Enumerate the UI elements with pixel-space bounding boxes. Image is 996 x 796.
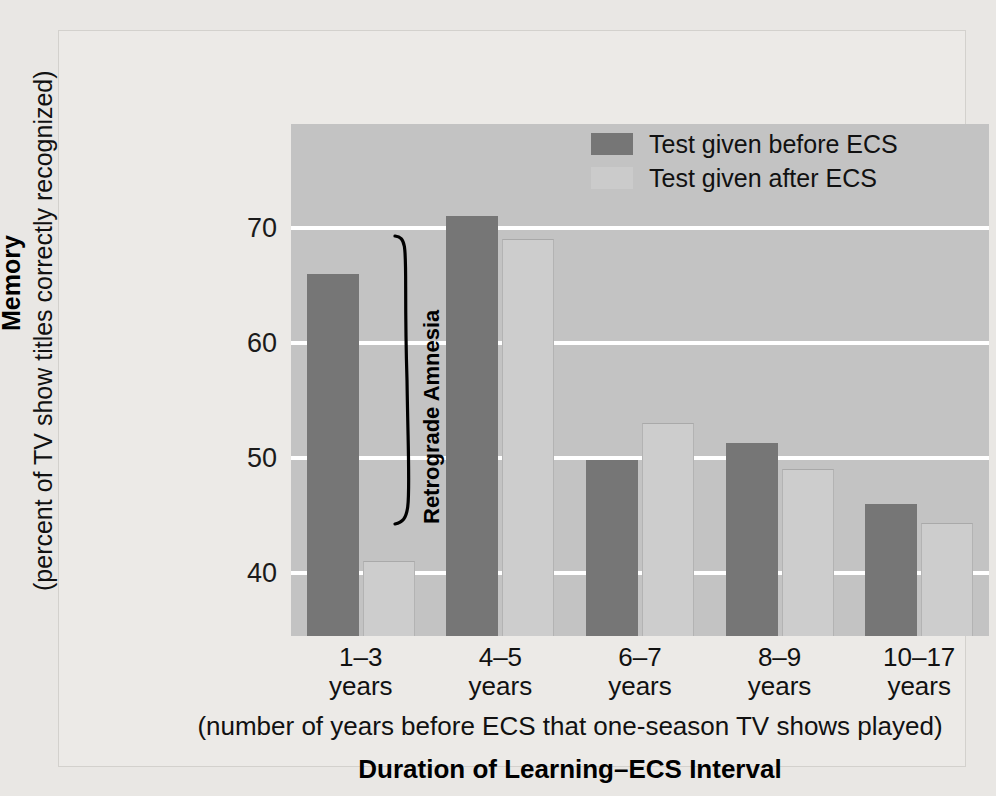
bar-after-ecs — [782, 469, 834, 636]
y-tick-label-70: 70 — [247, 212, 277, 243]
bar-after-ecs — [363, 561, 415, 636]
x-tick-label-3: 6–7years — [570, 643, 710, 701]
bar-before-ecs — [586, 460, 638, 636]
x-axis-subtitle: (number of years before ECS that one-sea… — [117, 711, 996, 742]
bar-after-ecs — [642, 423, 694, 636]
y-axis-ticks: 40506070 — [209, 124, 277, 636]
x-tick-label-2: 4–5years — [431, 643, 571, 701]
legend-swatch-before-icon — [591, 133, 633, 155]
y-axis-title: Memory — [0, 235, 26, 331]
bar-before-ecs — [726, 443, 778, 636]
legend-swatch-after-icon — [591, 167, 633, 189]
x-axis-ticks: 1–3years4–5years6–7years8–9years10–17yea… — [291, 643, 989, 701]
y-tick-label-50: 50 — [247, 442, 277, 473]
bar-after-ecs — [921, 523, 973, 636]
bar-before-ecs — [307, 274, 359, 636]
figure-canvas: Memory (percent of TV show titles correc… — [0, 0, 996, 796]
y-tick-label-60: 60 — [247, 327, 277, 358]
retrograde-amnesia-label: Retrograde Amnesia — [419, 310, 445, 524]
legend-item-before[interactable]: Test given before ECS — [591, 127, 981, 161]
bar-before-ecs — [865, 504, 917, 636]
bar-after-ecs — [502, 239, 554, 636]
legend-label-before: Test given before ECS — [649, 130, 898, 159]
x-tick-label-1: 1–3years — [291, 643, 431, 701]
legend-item-after[interactable]: Test given after ECS — [591, 161, 981, 195]
y-tick-label-40: 40 — [247, 557, 277, 588]
x-axis-title: Duration of Learning–ECS Interval — [117, 754, 996, 785]
x-tick-label-4: 8–9years — [710, 643, 850, 701]
x-tick-label-5: 10–17years — [849, 643, 989, 701]
legend: Test given before ECS Test given after E… — [591, 127, 981, 195]
chart-card: Memory (percent of TV show titles correc… — [58, 30, 966, 767]
gridline-70 — [291, 226, 989, 230]
bar-before-ecs — [446, 216, 498, 636]
y-axis-subtitle: (percent of TV show titles correctly rec… — [29, 70, 58, 591]
plot-area: Test given before ECS Test given after E… — [291, 124, 989, 636]
legend-label-after: Test given after ECS — [649, 164, 877, 193]
